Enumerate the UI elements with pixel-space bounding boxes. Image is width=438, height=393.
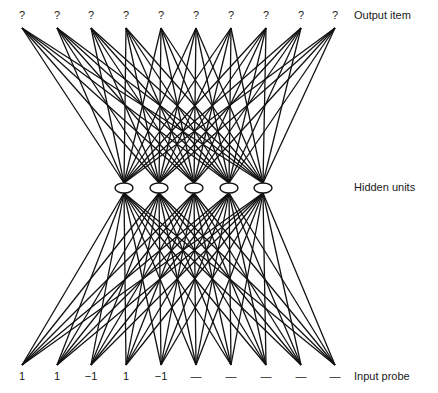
output-node-value: ?	[123, 9, 129, 21]
output-node-value: ?	[88, 9, 94, 21]
input-node-value: −1	[85, 370, 98, 382]
output-node-value: ?	[332, 9, 338, 21]
output-node-value: ?	[298, 9, 304, 21]
input-node-value: —	[296, 370, 307, 382]
input-node-value: −1	[155, 370, 168, 382]
input-node-value: 1	[54, 370, 60, 382]
hidden-units-label: Hidden units	[354, 181, 415, 193]
input-node-value: —	[261, 370, 272, 382]
hidden-unit	[185, 183, 203, 193]
input-node-value: —	[226, 370, 237, 382]
hidden-unit	[115, 183, 133, 193]
input-node-value: —	[191, 370, 202, 382]
input-node-value: 1	[123, 370, 129, 382]
hidden-units	[115, 183, 272, 193]
output-node-value: ?	[19, 9, 25, 21]
input-probe-label: Input probe	[354, 370, 410, 382]
output-node-value: ?	[158, 9, 164, 21]
network-diagram	[0, 0, 438, 393]
output-node-value: ?	[193, 9, 199, 21]
connection-lines	[22, 28, 335, 365]
output-node-value: ?	[263, 9, 269, 21]
output-node-value: ?	[54, 9, 60, 21]
hidden-unit	[254, 183, 272, 193]
hidden-unit	[220, 183, 238, 193]
input-node-value: 1	[19, 370, 25, 382]
hidden-unit	[150, 183, 168, 193]
output-node-value: ?	[228, 9, 234, 21]
input-node-value: —	[330, 370, 341, 382]
output-item-label: Output item	[354, 9, 411, 21]
